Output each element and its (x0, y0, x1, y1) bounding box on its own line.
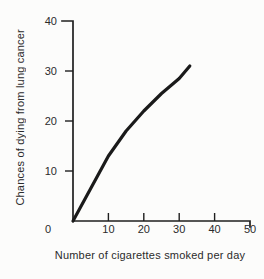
y-tick-label: 30 (45, 65, 57, 77)
x-tick-label: 10 (102, 223, 114, 235)
x-tick-label: 20 (138, 223, 150, 235)
y-axis-title: Chances of dying from lung cancer (14, 29, 26, 206)
x-tick-label: 30 (173, 223, 185, 235)
x-tick-label: 40 (208, 223, 220, 235)
y-tick-label: 10 (45, 165, 57, 177)
y-tick-label: 20 (45, 115, 57, 127)
x-tick-label: 50 (244, 223, 256, 235)
data-curve (73, 66, 190, 221)
y-tick-label: 40 (45, 15, 57, 27)
x-axis-title-wrap: Number of cigarettes smoked per day (18, 245, 264, 263)
x-tick-label: 0 (45, 223, 51, 235)
chart-figure: 0102030405010203040 Chances of dying fro… (0, 0, 264, 279)
axes-lines (62, 21, 250, 227)
x-axis-title: Number of cigarettes smoked per day (55, 249, 245, 261)
plot-area: 0102030405010203040 (0, 0, 264, 279)
y-axis-title-wrap: Chances of dying from lung cancer (9, 10, 31, 225)
